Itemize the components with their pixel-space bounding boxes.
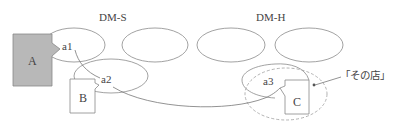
anchor-label-a1: a1 bbox=[62, 41, 72, 52]
anchor-label-a2: a2 bbox=[101, 74, 111, 85]
ellipse-dm-s-2 bbox=[122, 28, 188, 62]
connector-a1-a2 bbox=[75, 50, 100, 78]
ellipse-dm-h-1 bbox=[197, 28, 265, 62]
group-label-dm-s: DM-S bbox=[99, 12, 127, 23]
ellipse-dm-h-2 bbox=[275, 28, 343, 62]
callout-arrow-dot bbox=[313, 84, 316, 87]
anchor-label-a3: a3 bbox=[263, 76, 273, 87]
group-label-dm-h: DM-H bbox=[256, 12, 285, 23]
diagram-graphics bbox=[0, 0, 395, 125]
connector-a2-a3 bbox=[113, 87, 280, 107]
entity-label-b: B bbox=[79, 92, 87, 104]
callout-arrow-line bbox=[315, 77, 341, 85]
entity-label-c: C bbox=[293, 96, 301, 108]
diagram-canvas: DM-S DM-H A B C a1 a2 a3 「その店」 bbox=[0, 0, 395, 125]
callout-label-shop: 「その店」 bbox=[340, 70, 390, 81]
entity-label-a: A bbox=[28, 55, 37, 67]
